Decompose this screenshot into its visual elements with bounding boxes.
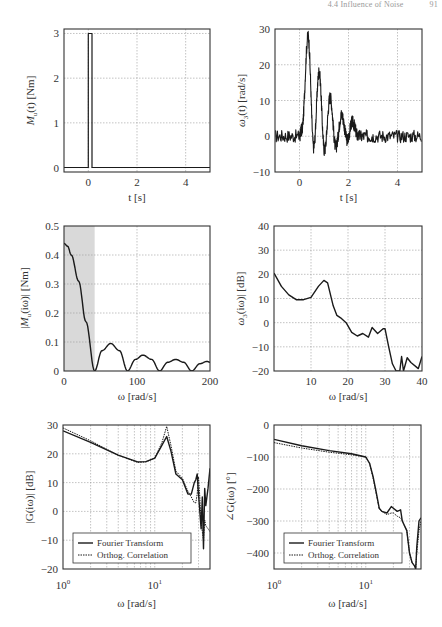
y-axis-label: Mu(t) [Nm] [24,76,39,127]
x-tick-label: 10 [306,375,318,387]
legend-entry-orthog: Orthog. Correlation [308,550,379,560]
chart-torque-spectrum: 00.10.20.30.40.50100200ω [rad/s]|Mu(iω)|… [18,220,219,402]
y-tick-label: 0.3 [45,278,59,290]
x-axis-label: ω [rad/s] [117,597,156,609]
y-tick-label: 30 [47,419,59,431]
x-tick-label: 200 [202,375,219,387]
y-tick-label: 0 [54,365,60,377]
y-tick-label: 0 [54,162,60,174]
y-tick-label: 0.4 [45,249,59,261]
x-tick-label: 0 [61,375,67,387]
y-tick-label: 0 [264,419,270,431]
y-tick-label: 30 [259,23,271,35]
y-tick-label: 0.5 [45,220,59,232]
legend-entry-fourier: Fourier Transform [97,538,163,548]
grid [274,226,422,371]
x-tick-label: 20 [343,375,355,387]
figure: 0123024t [s]Mu(t) [Nm] −100102030024t [s… [0,0,442,627]
y-tick-label: −10 [253,166,271,178]
y-axis-label: |G(iω)| [dB] [23,471,36,524]
x-axis-label: ω [rad/s] [329,390,368,402]
y-tick-label: 30 [258,244,270,256]
y-tick-label: −20 [41,563,59,575]
y-tick-label: 3 [54,27,60,39]
x-tick-label: 0 [86,176,92,188]
y-tick-label: 0 [265,130,271,142]
chart-speed-spectrum: −20−1001020304010203040ω [rad/s]ω3(iω)| … [234,220,428,402]
grid [64,29,210,172]
y-tick-label: −10 [252,341,270,353]
x-tick-label: 101 [359,578,374,591]
y-tick-label: −400 [246,547,269,559]
legend: Fourier TransformOrthog. Correlation [73,533,191,563]
x-tick-label: 100 [129,375,146,387]
y-tick-label: 20 [259,59,271,71]
y-tick-label: 20 [258,268,270,280]
y-tick-label: 2 [54,72,60,84]
y-tick-label: −10 [41,534,59,546]
y-tick-label: 10 [259,95,271,107]
y-axis-label: ω3(iω)| [dB] [234,271,249,325]
y-tick-label: 10 [258,293,270,305]
chart-bode-phase: −400−300−200−1000100101ω [rad/s]∠G(iω) [… [224,419,421,609]
x-tick-label: 100 [56,578,71,591]
y-tick-label: −300 [246,515,269,527]
x-tick-label: 4 [183,176,189,188]
x-tick-label: 30 [380,375,392,387]
y-tick-label: −100 [246,451,269,463]
x-tick-label: 0 [297,176,303,188]
y-axis-label: ∠G(iω) [°] [224,472,237,521]
y-tick-label: 1 [54,117,60,129]
y-tick-label: 20 [47,448,59,460]
x-axis-label: t [s] [340,191,357,203]
series-orthog-correlation [63,426,210,540]
x-tick-label: 101 [148,578,163,591]
y-tick-label: 0 [53,505,59,517]
y-axis-label: |Mu(iω)| [Nm] [18,267,33,329]
chart-bode-magnitude: −20−100102030100101ω [rad/s]|G(iω)| [dB]… [23,419,210,609]
chart-torque-time: 0123024t [s]Mu(t) [Nm] [24,27,210,203]
x-tick-label: 2 [346,176,352,188]
legend-entry-orthog: Orthog. Correlation [97,550,168,560]
x-axis-label: t [s] [128,191,145,203]
y-tick-label: 10 [47,477,59,489]
y-axis-label: ω3(t) [rad/s] [235,74,250,127]
x-tick-label: 2 [134,176,140,188]
x-axis-label: ω [rad/s] [328,597,367,609]
x-tick-label: 100 [267,578,282,591]
y-tick-label: −20 [252,365,270,377]
y-tick-label: 40 [258,220,270,232]
legend-entry-fourier: Fourier Transform [308,538,374,548]
y-tick-label: 0.1 [45,336,59,348]
y-tick-label: 0 [264,317,270,329]
x-tick-label: 40 [417,375,429,387]
grid [275,29,422,172]
x-axis-label: ω [rad/s] [118,390,157,402]
series-fourier-transform [63,431,210,549]
chart-speed-time: −100102030024t [s]ω3(t) [rad/s] [235,23,422,203]
legend: Fourier TransformOrthog. Correlation [284,533,402,563]
y-tick-label: −200 [246,483,269,495]
x-tick-label: 4 [395,176,401,188]
y-tick-label: 0.2 [45,307,59,319]
